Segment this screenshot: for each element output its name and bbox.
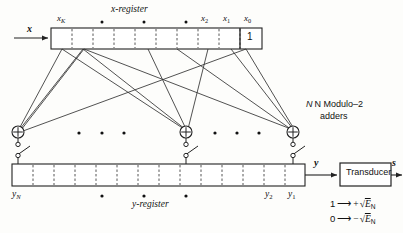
adder-middle bbox=[180, 126, 192, 138]
y1-subscript: 1 bbox=[292, 193, 295, 200]
mapping-arrow-1: ⟶ bbox=[337, 199, 351, 209]
mapping-bit-1: 1 bbox=[330, 198, 335, 209]
figure-root: x-register x xK x2 x1 x0 1 NN Modulo–2 a… bbox=[0, 0, 403, 233]
adder-right bbox=[287, 126, 299, 138]
mapping-row-2: 0⟶−√EN bbox=[330, 214, 375, 226]
input-x-label: x bbox=[27, 24, 32, 34]
x-register-tick-x0: x0 bbox=[244, 14, 251, 24]
x-register-title: x-register bbox=[111, 5, 148, 15]
switch-right[interactable] bbox=[291, 138, 305, 164]
y2-subscript: 2 bbox=[269, 193, 272, 200]
x-register-box bbox=[51, 28, 262, 49]
y-register-tick-y2: y2 bbox=[265, 190, 273, 201]
x-register-tick-xK: xK bbox=[57, 14, 65, 24]
x1-subscript: 1 bbox=[227, 17, 230, 24]
switch-middle[interactable] bbox=[184, 138, 198, 164]
xK-subscript: K bbox=[61, 17, 65, 24]
adders-modulo-text: N Modulo–2 bbox=[315, 99, 364, 109]
mapping-bit-0: 0 bbox=[330, 213, 335, 224]
adders-caption-line1: NN Modulo–2 bbox=[306, 100, 363, 109]
output-y-label: y bbox=[314, 158, 318, 168]
mapping-arrow-2: ⟶ bbox=[337, 214, 351, 224]
y-register-tick-yN: yN bbox=[12, 190, 21, 201]
adder-row-left-dots bbox=[77, 131, 125, 134]
mapping-energy-sub-2: N bbox=[371, 218, 376, 225]
switch-left[interactable] bbox=[16, 138, 30, 164]
x-register-last-cell-value: 1 bbox=[247, 32, 253, 42]
mapping-sign-2: − bbox=[353, 214, 358, 224]
yN-subscript: N bbox=[16, 193, 20, 200]
mapping-row-1: 1⟶+√EN bbox=[330, 199, 375, 211]
adder-left bbox=[12, 126, 24, 138]
y-register-bottom-dots bbox=[100, 194, 187, 197]
mapping-energy-sub-1: N bbox=[371, 203, 376, 210]
x2-subscript: 2 bbox=[205, 17, 208, 24]
adders-caption-line2: adders bbox=[320, 112, 348, 121]
x-register-tick-x2: x2 bbox=[201, 14, 208, 24]
output-s-label: s bbox=[392, 158, 396, 168]
y-register-box bbox=[12, 164, 305, 186]
tap-connection-lines bbox=[19, 49, 294, 131]
x-register-tick-x1: x1 bbox=[223, 14, 230, 24]
x0-subscript: 0 bbox=[248, 17, 251, 24]
x-register-top-dots bbox=[101, 21, 188, 24]
y-register-tick-y1: y1 bbox=[288, 190, 296, 201]
adder-row-right-dots bbox=[213, 131, 260, 134]
adders-count-N: N bbox=[306, 99, 313, 109]
transducer-label: Transducer bbox=[346, 168, 391, 177]
y-register-title: y-register bbox=[132, 200, 169, 210]
mapping-sign-1: + bbox=[353, 199, 358, 209]
